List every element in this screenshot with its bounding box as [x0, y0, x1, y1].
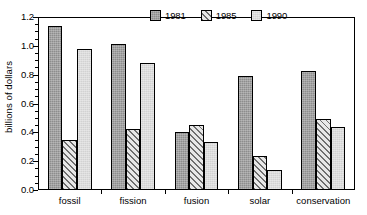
y-axis-tick-label: 0.2 — [14, 156, 34, 166]
bar-solar-1985 — [253, 156, 268, 190]
x-axis-category-label: solar — [228, 195, 291, 207]
bar-chart: billions of dollars 0.00.20.40.60.81.01.… — [0, 0, 367, 215]
x-axis-category-label: fusion — [165, 195, 228, 207]
y-axis-tick-label: 0.8 — [14, 70, 34, 80]
y-axis-minor-tick-mark — [35, 67, 38, 68]
y-axis-tick-mark — [33, 17, 38, 18]
bar-fission-1981 — [111, 44, 126, 190]
x-axis-category-label: fission — [101, 195, 164, 207]
bar-fusion-1981 — [175, 132, 190, 190]
y-axis-tick-mark — [33, 161, 38, 162]
legend-entry-1985: 1985 — [201, 10, 237, 21]
y-axis-minor-tick-mark — [35, 168, 38, 169]
y-axis-minor-tick-mark — [35, 176, 38, 177]
bar-conservation-1990 — [331, 127, 346, 190]
y-axis-minor-tick-mark — [35, 111, 38, 112]
bar-fusion-1985 — [189, 125, 204, 190]
y-axis-minor-tick-mark — [35, 60, 38, 61]
bar-fossil-1981 — [48, 26, 63, 190]
legend-label-1981: 1981 — [165, 10, 186, 21]
y-axis-tick-mark — [33, 104, 38, 105]
bars-layer — [38, 17, 355, 190]
y-axis-tick-label: 0.6 — [14, 99, 34, 109]
y-axis-minor-tick-mark — [35, 31, 38, 32]
y-axis-minor-tick-mark — [35, 140, 38, 141]
y-axis-minor-tick-mark — [35, 53, 38, 54]
legend-entry-1981: 1981 — [150, 10, 186, 21]
x-axis-tick-mark — [101, 190, 102, 194]
bar-fission-1990 — [140, 63, 155, 190]
y-axis-minor-tick-mark — [35, 183, 38, 184]
bar-fusion-1990 — [204, 142, 219, 190]
bar-conservation-1981 — [301, 71, 316, 190]
x-axis-tick-mark — [165, 190, 166, 194]
x-axis-tick-mark — [292, 190, 293, 194]
y-axis-minor-tick-mark — [35, 24, 38, 25]
x-axis-category-label: conservation — [292, 195, 355, 207]
chart-legend: 198119851990 — [150, 9, 287, 22]
y-axis-tick-mark — [33, 46, 38, 47]
y-axis-minor-tick-mark — [35, 147, 38, 148]
x-axis-category-label: fossil — [38, 195, 101, 207]
legend-label-1990: 1990 — [266, 10, 287, 21]
bar-solar-1981 — [238, 76, 253, 190]
y-axis-tick-mark — [33, 190, 38, 191]
bar-fission-1985 — [126, 129, 141, 190]
bar-solar-1990 — [267, 170, 282, 190]
y-axis-minor-tick-mark — [35, 118, 38, 119]
legend-swatch-1985 — [201, 10, 212, 21]
y-axis-tick-label: 0.0 — [14, 185, 34, 195]
x-axis-tick-mark — [228, 190, 229, 194]
y-axis-minor-tick-mark — [35, 154, 38, 155]
legend-swatch-1981 — [150, 10, 161, 21]
legend-swatch-1990 — [251, 10, 262, 21]
legend-label-1985: 1985 — [216, 10, 237, 21]
y-axis-tick-mark — [33, 75, 38, 76]
bar-fossil-1985 — [62, 140, 77, 190]
y-axis-minor-tick-mark — [35, 39, 38, 40]
y-axis-minor-tick-mark — [35, 89, 38, 90]
y-axis-tick-labels: 0.00.20.40.60.81.01.2 — [12, 0, 34, 215]
y-axis-minor-tick-mark — [35, 82, 38, 83]
y-axis-tick-label: 1.2 — [14, 12, 34, 22]
y-axis-minor-tick-mark — [35, 96, 38, 97]
y-axis-tick-mark — [33, 132, 38, 133]
bar-conservation-1985 — [316, 119, 331, 190]
y-axis-tick-label: 0.4 — [14, 127, 34, 137]
legend-entry-1990: 1990 — [251, 10, 287, 21]
y-axis-tick-label: 1.0 — [14, 41, 34, 51]
y-axis-minor-tick-mark — [35, 125, 38, 126]
bar-fossil-1990 — [77, 49, 92, 190]
